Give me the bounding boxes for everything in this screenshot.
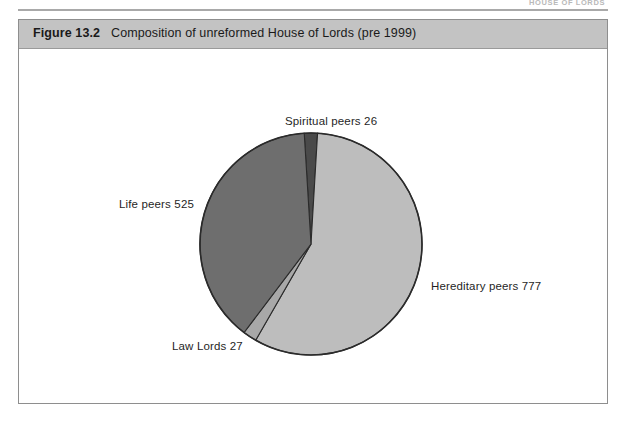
figure-number: Figure 13.2 [33,26,100,40]
pie-chart-svg [19,49,607,403]
pie-label-spiritual-peers: Spiritual peers 26 [285,115,377,127]
pie-label-hereditary-peers: Hereditary peers 777 [431,280,541,292]
pie-label-law-lords: Law Lords 27 [172,340,243,352]
running-head-text: HOUSE OF LORDS [529,0,605,7]
figure-header-bar: Figure 13.2 Composition of unreformed Ho… [19,20,607,49]
figure-box: Figure 13.2 Composition of unreformed Ho… [18,19,608,404]
pie-label-life-peers: Life peers 525 [119,198,194,210]
page-running-head: HOUSE OF LORDS [0,0,627,14]
pie-chart-area: Spiritual peers 26 Life peers 525 Heredi… [19,49,607,403]
pie-slices-group [200,133,422,355]
running-head-rule [18,9,608,11]
figure-caption: Composition of unreformed House of Lords… [111,26,416,40]
